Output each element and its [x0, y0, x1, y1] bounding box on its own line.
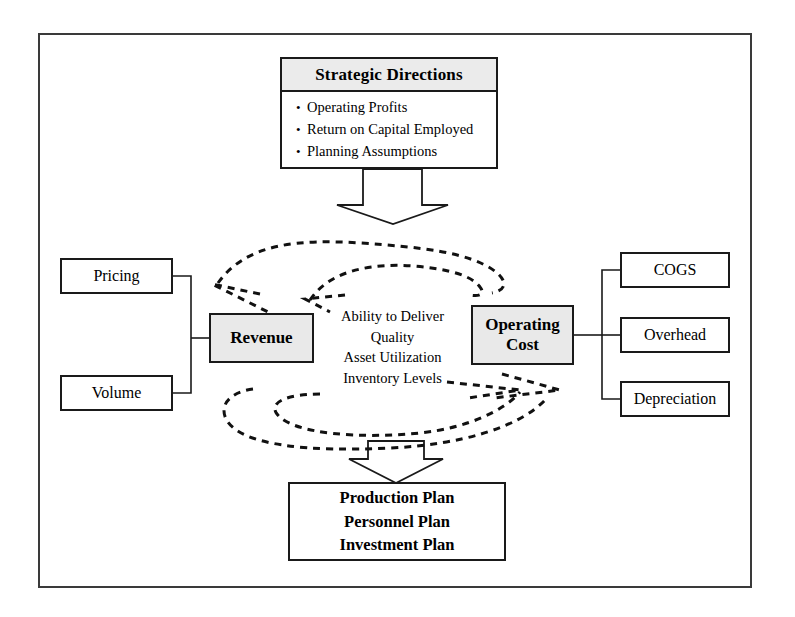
strategic-directions-title: Strategic Directions — [282, 59, 496, 92]
strategic-directions-box: Strategic Directions • Operating Profits… — [280, 57, 498, 169]
bullet-icon: • — [296, 98, 307, 118]
node-depreciation: Depreciation — [620, 381, 730, 417]
center-factor-item: Ability to Deliver — [325, 306, 460, 327]
center-factor-item: Quality — [325, 327, 460, 348]
plan-item: Production Plan — [340, 486, 455, 510]
node-pricing-label: Pricing — [93, 267, 139, 286]
node-volume-label: Volume — [92, 384, 141, 403]
node-depreciation-label: Depreciation — [634, 390, 717, 409]
node-cogs-label: COGS — [654, 261, 697, 280]
node-volume: Volume — [60, 375, 173, 411]
node-plans: Production Plan Personnel Plan Investmen… — [288, 482, 506, 561]
node-operating-cost: Operating Cost — [471, 305, 574, 365]
plan-item: Personnel Plan — [344, 510, 450, 534]
bullet-icon: • — [296, 120, 307, 140]
list-item: • Operating Profits — [296, 96, 496, 118]
list-item-label: Return on Capital Employed — [307, 118, 473, 140]
plan-item: Investment Plan — [339, 533, 454, 557]
center-factors-list: Ability to Deliver Quality Asset Utiliza… — [325, 306, 460, 388]
node-overhead: Overhead — [620, 317, 730, 353]
list-item: • Return on Capital Employed — [296, 118, 496, 140]
list-item: • Planning Assumptions — [296, 140, 496, 162]
center-factor-item: Asset Utilization — [325, 347, 460, 368]
node-pricing: Pricing — [60, 258, 173, 294]
diagram-canvas: Strategic Directions • Operating Profits… — [0, 0, 795, 617]
node-revenue-label: Revenue — [230, 328, 292, 348]
node-revenue: Revenue — [209, 313, 314, 363]
node-overhead-label: Overhead — [644, 326, 706, 345]
node-operating-cost-label-line1: Operating — [485, 315, 560, 335]
bullet-icon: • — [296, 142, 307, 162]
center-factor-item: Inventory Levels — [325, 368, 460, 389]
node-cogs: COGS — [620, 252, 730, 288]
list-item-label: Planning Assumptions — [307, 140, 437, 162]
node-operating-cost-label-line2: Cost — [485, 335, 560, 355]
strategic-directions-bullet-list: • Operating Profits • Return on Capital … — [282, 92, 496, 163]
list-item-label: Operating Profits — [307, 96, 407, 118]
